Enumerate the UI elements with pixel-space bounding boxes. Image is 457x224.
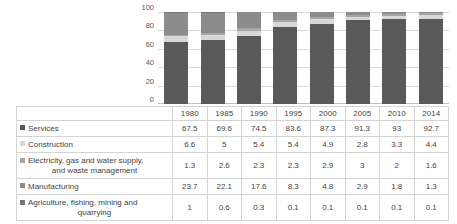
stacked-bar[interactable]: [237, 12, 261, 104]
table-row: Agriculture, fishing, mining andquarryin…: [17, 195, 449, 221]
y-axis-tick: 100: [128, 4, 154, 12]
table-cell: 4.9: [311, 137, 346, 153]
bar-segment[interactable]: [164, 13, 188, 35]
legend-cell[interactable]: Construction: [17, 137, 173, 153]
table-cell: 1.3: [414, 179, 449, 195]
table-cell: 2.9: [345, 179, 380, 195]
table-cell: 2.9: [311, 153, 346, 179]
table-cell: 0.6: [207, 195, 242, 221]
y-axis-tick: 0: [128, 96, 154, 104]
table-cell: 83.6: [276, 121, 311, 137]
table-cell: 1.6: [414, 153, 449, 179]
table-cell: 69.6: [207, 121, 242, 137]
table-cell: 2.6: [207, 153, 242, 179]
legend-cell[interactable]: Services: [17, 121, 173, 137]
legend-cell[interactable]: Agriculture, fishing, mining andquarryin…: [17, 195, 173, 221]
legend-label: Manufacturing: [28, 182, 79, 191]
table-cell: 4.8: [311, 179, 346, 195]
table-cell: 3.3: [380, 137, 415, 153]
bar-segment[interactable]: [419, 19, 443, 104]
legend-label: Electricity, gas and water supply,: [28, 157, 143, 166]
bar-slot: [267, 12, 303, 104]
table-column-header: 1985: [207, 107, 242, 121]
stacked-bar[interactable]: [310, 12, 334, 104]
table-cell: 91.3: [345, 121, 380, 137]
table-cell: 0.1: [345, 195, 380, 221]
table-cell: 0.1: [380, 195, 415, 221]
table-row: Services67.569.674.583.687.391.39392.7: [17, 121, 449, 137]
legend-label-line2: quarrying: [20, 208, 169, 217]
stacked-bar[interactable]: [419, 12, 443, 104]
table-cell: 0.3: [242, 195, 277, 221]
bar-group: [158, 12, 449, 104]
table-column-header: 1980: [173, 107, 208, 121]
bar-segment[interactable]: [164, 42, 188, 104]
y-axis-tick: 20: [128, 78, 154, 86]
table-cell: 23.7: [173, 179, 208, 195]
legend-cell[interactable]: Electricity, gas and water supply,and wa…: [17, 153, 173, 179]
bar-segment[interactable]: [237, 36, 261, 105]
bar-segment[interactable]: [237, 12, 261, 28]
table-column-header: 1990: [242, 107, 277, 121]
table-cell: 0.1: [276, 195, 311, 221]
table-cell: 2.3: [242, 153, 277, 179]
table-cell: 2.3: [276, 153, 311, 179]
table-cell: 92.7: [414, 121, 449, 137]
bar-segment[interactable]: [382, 19, 406, 104]
table-cell: 8.3: [276, 179, 311, 195]
table-column-header: 2010: [380, 107, 415, 121]
table-cell: 1.3: [173, 153, 208, 179]
data-table: 19801985199019952000200520102014Services…: [16, 106, 449, 221]
y-axis-tick: 40: [128, 59, 154, 67]
table-cell: 74.5: [242, 121, 277, 137]
table-cell: 1.8: [380, 179, 415, 195]
stacked-bar[interactable]: [382, 12, 406, 104]
legend-cell[interactable]: Manufacturing: [17, 179, 173, 195]
bar-segment[interactable]: [310, 24, 334, 104]
bar-segment[interactable]: [201, 13, 225, 33]
table-cell: 6.6: [173, 137, 208, 153]
bar-segment[interactable]: [273, 12, 297, 20]
bar-segment[interactable]: [346, 20, 370, 104]
table-cell: 5.4: [276, 137, 311, 153]
table-cell: 22.1: [207, 179, 242, 195]
bar-slot: [304, 12, 340, 104]
plot-canvas: [158, 12, 449, 104]
stacked-bar[interactable]: [164, 12, 188, 104]
table-cell: 0.1: [311, 195, 346, 221]
table-cell: 2.8: [345, 137, 380, 153]
table-row: Construction6.655.45.44.92.83.34.4: [17, 137, 449, 153]
bar-slot: [376, 12, 412, 104]
legend-label: Agriculture, fishing, mining and: [28, 199, 137, 208]
bar-slot: [231, 12, 267, 104]
table-cell: 17.6: [242, 179, 277, 195]
table-column-header: 2005: [345, 107, 380, 121]
bar-segment[interactable]: [201, 40, 225, 104]
table-cell: 67.5: [173, 121, 208, 137]
legend-swatch-icon: [20, 183, 25, 188]
stacked-bar[interactable]: [201, 12, 225, 104]
legend-swatch-icon: [20, 158, 25, 163]
table-header-row: 19801985199019952000200520102014: [17, 107, 449, 121]
legend-swatch-icon: [20, 125, 25, 130]
bar-segment[interactable]: [273, 27, 297, 104]
bar-slot: [340, 12, 376, 104]
chart-plot-area: 100 80 60 40 20 0: [0, 0, 457, 110]
legend-swatch-icon: [20, 141, 25, 146]
legend-label-line2: and waste management: [20, 166, 169, 175]
table-column-header: 2000: [311, 107, 346, 121]
legend-label: Construction: [28, 140, 73, 149]
bar-slot: [413, 12, 449, 104]
stacked-bar[interactable]: [273, 12, 297, 104]
table-row: Electricity, gas and water supply,and wa…: [17, 153, 449, 179]
table-column-header: 1995: [276, 107, 311, 121]
table-cell: 1: [173, 195, 208, 221]
y-axis-tick: 60: [128, 41, 154, 49]
y-axis-tick: 80: [128, 22, 154, 30]
bar-slot: [158, 12, 194, 104]
legend-swatch-icon: [20, 200, 25, 205]
legend-label: Services: [28, 124, 59, 133]
stacked-bar[interactable]: [346, 12, 370, 104]
table-cell: 0.1: [414, 195, 449, 221]
table-cell: 5.4: [242, 137, 277, 153]
